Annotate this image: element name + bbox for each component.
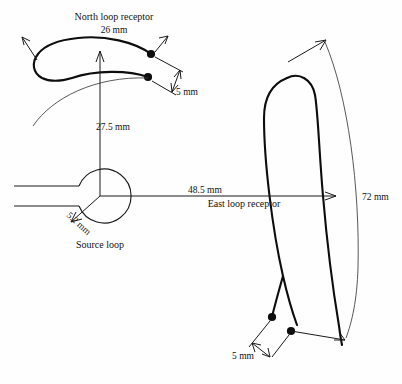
north-loop-terminal-lower: [144, 73, 152, 81]
north-loop-title: North loop receptor: [75, 11, 155, 22]
diagram-page: North loop receptor 26 mm 5 mm 27.5 mm 5…: [0, 0, 402, 384]
east-loop-top-turn: [287, 76, 315, 95]
north-loop-inner-conductor: [72, 72, 148, 78]
east-loop-stub-inner: [272, 276, 283, 317]
north-loop-distance-label: 27.5 mm: [96, 122, 130, 132]
north-loop-length-label: 26 mm: [101, 25, 128, 35]
north-loop-terminal-upper: [147, 50, 155, 58]
east-loop-length-label: 72 mm: [362, 192, 389, 202]
north-loop-width-label: 5 mm: [176, 87, 199, 97]
east-loop-receptor: [264, 76, 342, 345]
loop-receptor-diagram: North loop receptor 26 mm 5 mm 27.5 mm 5…: [0, 0, 402, 384]
north-loop-receptor: [34, 37, 155, 81]
north-loop-guide-arc: [33, 78, 148, 126]
east-loop-width-label: 5 mm: [232, 351, 255, 361]
dimension-east-loop-width: [249, 321, 289, 357]
east-loop-title: East loop receptor: [208, 198, 281, 209]
east-loop-distance-label: 48.5 mm: [188, 185, 222, 195]
east-loop-outer-conductor: [315, 95, 342, 345]
source-loop-title: Source loop: [76, 239, 124, 250]
